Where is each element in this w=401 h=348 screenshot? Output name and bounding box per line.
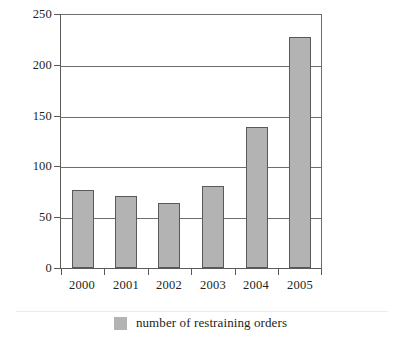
bar-2001 (115, 196, 137, 268)
x-axis-tick-5 (278, 269, 279, 275)
bar-2004 (246, 127, 268, 268)
y-axis-label-50: 50 (6, 211, 52, 224)
bar-2000 (72, 190, 94, 268)
gridline-150 (61, 117, 321, 118)
bar-chart-figure: 250 200 150 100 50 0 2000 2001 2002 2003… (0, 0, 401, 348)
y-axis-tick-200 (54, 65, 61, 66)
y-axis-tick-0 (54, 268, 61, 269)
bar-2005 (289, 37, 311, 268)
legend-separator (16, 311, 388, 312)
y-axis-label-200: 200 (6, 59, 52, 72)
x-axis-tick-2 (148, 269, 149, 275)
y-axis-label-150: 150 (6, 110, 52, 123)
gridline-100 (61, 167, 321, 168)
y-axis-tick-150 (54, 116, 61, 117)
gridline-200 (61, 66, 321, 67)
x-axis-tick-1 (104, 269, 105, 275)
bar-2002 (158, 203, 180, 268)
x-axis-tick-4 (235, 269, 236, 275)
legend-entry-label: number of restraining orders (136, 316, 287, 330)
bar-2003 (202, 186, 224, 268)
x-axis-tick-0 (61, 269, 62, 275)
x-axis-tick-3 (191, 269, 192, 275)
x-axis-tick-6 (321, 269, 322, 275)
plot-area (60, 14, 322, 269)
gridline-50 (61, 218, 321, 219)
y-axis-label-250: 250 (6, 8, 52, 21)
y-axis-tick-250 (54, 14, 61, 15)
y-axis-label-100: 100 (6, 160, 52, 173)
y-axis-tick-50 (54, 217, 61, 218)
y-axis-tick-100 (54, 166, 61, 167)
legend-color-swatch (114, 317, 127, 330)
y-axis-label-0: 0 (6, 262, 52, 275)
x-axis-label-2005: 2005 (272, 279, 328, 292)
chart-legend: number of restraining orders (0, 316, 401, 330)
